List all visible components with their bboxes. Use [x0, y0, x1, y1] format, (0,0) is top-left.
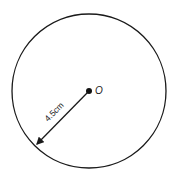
radius-label: 4.5cm [42, 100, 65, 123]
center-label: O [95, 85, 103, 96]
center-point [86, 88, 92, 94]
circle-diagram: O 4.5cm [0, 0, 176, 181]
